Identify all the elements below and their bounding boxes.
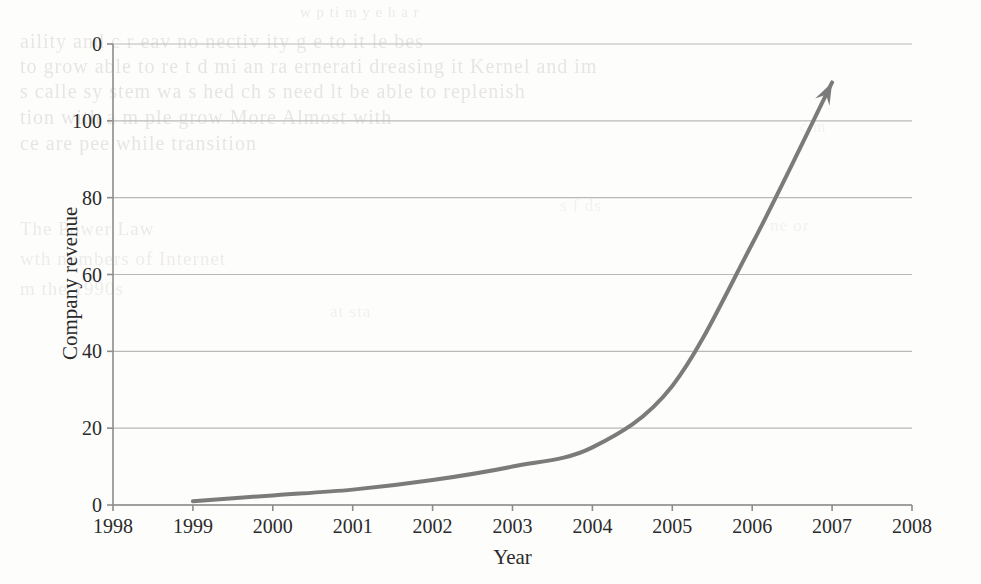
- y-tick-label: 20: [20, 417, 102, 440]
- y-tick-label: 0: [20, 494, 102, 517]
- revenue-growth-curve: [193, 82, 832, 501]
- x-tick-label: 2008: [892, 515, 932, 538]
- x-axis-tick-marks: [113, 505, 912, 511]
- x-axis-title: Year: [493, 545, 532, 570]
- x-tick-label: 2004: [572, 515, 612, 538]
- chart-plot-svg: [0, 0, 981, 584]
- x-tick-label: 1998: [93, 515, 133, 538]
- x-tick-label: 2005: [652, 515, 692, 538]
- x-tick-label: 2000: [253, 515, 293, 538]
- x-tick-label: 2006: [732, 515, 772, 538]
- y-tick-label: 0: [20, 33, 102, 56]
- horizontal-gridlines: [113, 44, 912, 505]
- y-axis-tick-marks: [107, 44, 113, 505]
- revenue-line-chart: 0204060801000 19981999200020012002200320…: [0, 0, 981, 584]
- y-axis-title: Company revenue: [58, 207, 83, 360]
- x-tick-label: 2001: [333, 515, 373, 538]
- x-tick-label: 2002: [413, 515, 453, 538]
- y-tick-label: 100: [20, 109, 102, 132]
- x-tick-label: 2007: [812, 515, 852, 538]
- x-tick-label: 2003: [493, 515, 533, 538]
- x-tick-label: 1999: [173, 515, 213, 538]
- scanned-chart-page: w p ti m y e h a raility and c r eav no …: [0, 0, 981, 584]
